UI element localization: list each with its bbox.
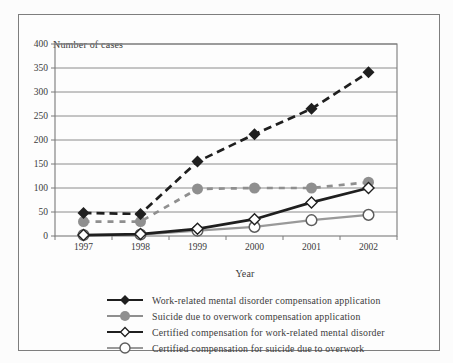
diamond-open-marker (121, 328, 130, 337)
legend-item: Work-related mental disorder compensatio… (107, 292, 385, 308)
y-axis-title: Number of cases (53, 39, 123, 50)
circle-filled-marker (120, 311, 130, 321)
legend-circle-filled-icon (107, 309, 143, 323)
x-axis-title: Year (235, 268, 254, 279)
legend-label: Certified compensation for suicide due t… (152, 343, 364, 354)
figure-frame: Number of cases Year Work-related mental… (18, 14, 440, 351)
legend-diamond-open-icon (107, 325, 143, 339)
legend-label: Certified compensation for work-related … (152, 327, 385, 338)
legend-label: Work-related mental disorder compensatio… (152, 295, 381, 306)
chart-legend: Work-related mental disorder compensatio… (107, 292, 385, 356)
diamond-filled-marker (120, 295, 130, 305)
legend-item: Certified compensation for suicide due t… (107, 340, 385, 356)
circle-open-marker (120, 343, 130, 353)
legend-circle-open-icon (107, 341, 143, 355)
legend-diamond-filled-icon (107, 293, 143, 307)
legend-label: Suicide due to overwork compensation app… (152, 311, 360, 322)
legend-item: Certified compensation for work-related … (107, 324, 385, 340)
legend-item: Suicide due to overwork compensation app… (107, 308, 385, 324)
